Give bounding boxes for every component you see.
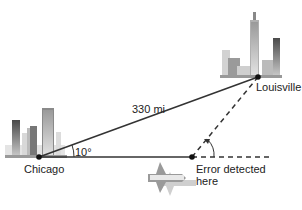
- angle-arc-correction: [208, 140, 214, 157]
- louisville-skyline-icon: [220, 12, 282, 78]
- distance-label: 330 mi: [132, 103, 165, 115]
- airplane-icon: [148, 162, 196, 196]
- intended-course-line: [39, 77, 258, 157]
- chicago-point: [36, 154, 42, 160]
- louisville-point: [255, 74, 261, 80]
- diagram-canvas: 330 mi 10° Chicago Louisville Error dete…: [0, 0, 302, 210]
- error-label-line2: here: [196, 175, 218, 187]
- angle-label: 10°: [75, 146, 92, 158]
- chicago-label: Chicago: [24, 163, 64, 175]
- louisville-label: Louisville: [256, 81, 301, 93]
- error-label-line1: Error detected: [196, 163, 266, 175]
- angle-arc-10: [72, 145, 74, 157]
- error-point: [189, 154, 195, 160]
